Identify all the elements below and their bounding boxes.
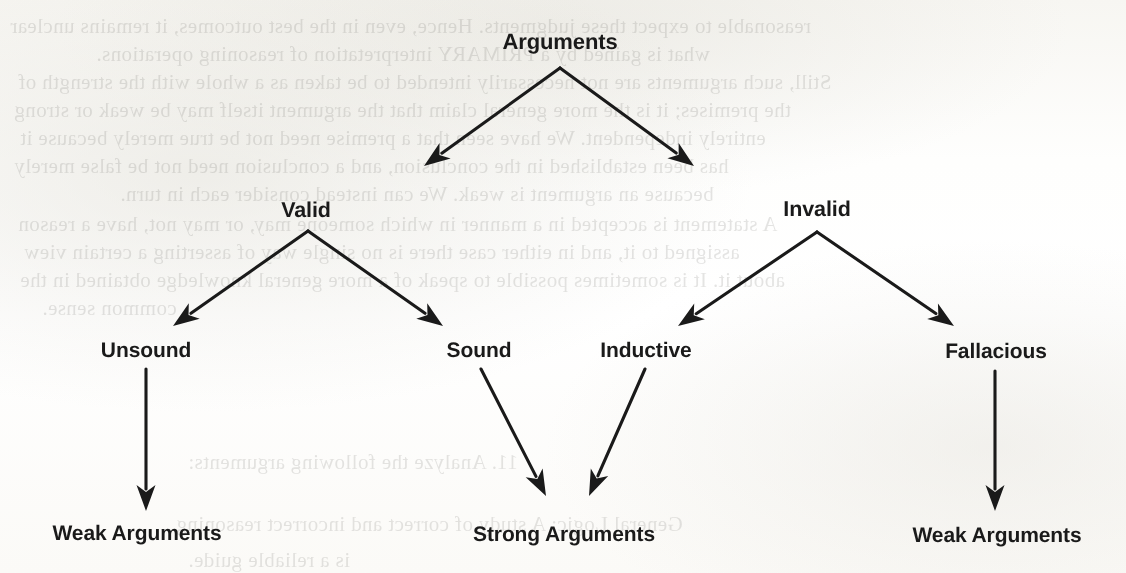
edge-unsound-to-weak-left [137, 369, 156, 511]
edge-arrowhead [416, 303, 443, 326]
node-label-inductive: Inductive [600, 339, 691, 363]
edge-sound-to-strong [481, 369, 546, 496]
edge-arrowhead [678, 304, 705, 326]
edge-valid-to-sound [308, 231, 443, 326]
edge-arrowhead [667, 143, 694, 166]
argument-tree-edges [0, 0, 1126, 573]
edge-invalid-to-inductive [678, 232, 817, 326]
node-label-sound: Sound [447, 339, 512, 363]
node-label-weak-arguments-left: Weak Arguments [53, 522, 222, 546]
edge-valid-to-unsound [173, 231, 308, 326]
edge-arguments-to-invalid [560, 68, 694, 166]
edge-invalid-to-fallacious [817, 232, 954, 326]
node-label-weak-arguments-right: Weak Arguments [913, 524, 1082, 548]
edge-shaft [308, 231, 425, 313]
edge-shaft [817, 232, 936, 314]
edge-shaft [598, 369, 645, 476]
edge-shaft [696, 232, 817, 314]
node-label-invalid: Invalid [783, 197, 850, 222]
edge-inductive-to-strong [589, 369, 645, 496]
edge-arguments-to-valid [424, 68, 560, 166]
node-label-arguments: Arguments [502, 29, 617, 55]
edge-shaft [442, 68, 560, 153]
edge-arrowhead [424, 143, 451, 166]
edge-arrowhead [927, 303, 954, 326]
edge-shaft [191, 231, 308, 313]
edge-shaft [560, 68, 676, 153]
node-label-fallacious: Fallacious [945, 340, 1047, 364]
node-label-unsound: Unsound [101, 339, 191, 363]
edge-fallacious-to-weak-right [986, 371, 1005, 511]
scanned-diagram-page: reasonable to expect these judgments. He… [0, 0, 1126, 573]
edge-shaft [481, 369, 536, 476]
edge-arrowhead [526, 469, 546, 496]
node-label-valid: Valid [281, 198, 331, 223]
node-label-strong-arguments: Strong Arguments [473, 523, 655, 547]
edge-arrowhead [173, 303, 200, 326]
